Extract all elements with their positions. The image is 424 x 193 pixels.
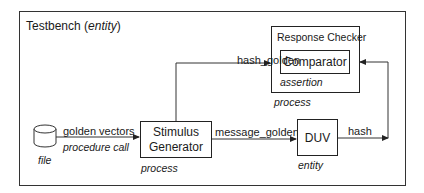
stimulus-generator-label-2: Generator (149, 140, 203, 155)
golden-vectors-label: golden vectors (63, 126, 135, 137)
duv-box: DUV (297, 119, 338, 156)
response-checker-title: Response Checker (277, 32, 366, 43)
duv-kind: entity (298, 160, 323, 171)
hash-golden-arrow (176, 63, 270, 121)
hash-golden-label: hash_golden (237, 55, 300, 66)
comparator-kind: assertion (280, 77, 323, 88)
file-icon (34, 125, 56, 147)
testbench-title: Testbench (entity) (26, 20, 121, 32)
duv-label: DUV (305, 131, 330, 145)
response-checker-kind: process (274, 97, 311, 108)
message-golden-label: message_golden (215, 127, 299, 138)
stimulus-generator-kind: process (141, 163, 178, 174)
stimulus-generator-label-1: Stimulus (153, 125, 199, 140)
procedure-call-label: procedure call (63, 142, 129, 153)
stimulus-generator-box: Stimulus Generator (140, 121, 212, 158)
file-kind: file (38, 155, 51, 166)
hash-label: hash (348, 126, 372, 137)
